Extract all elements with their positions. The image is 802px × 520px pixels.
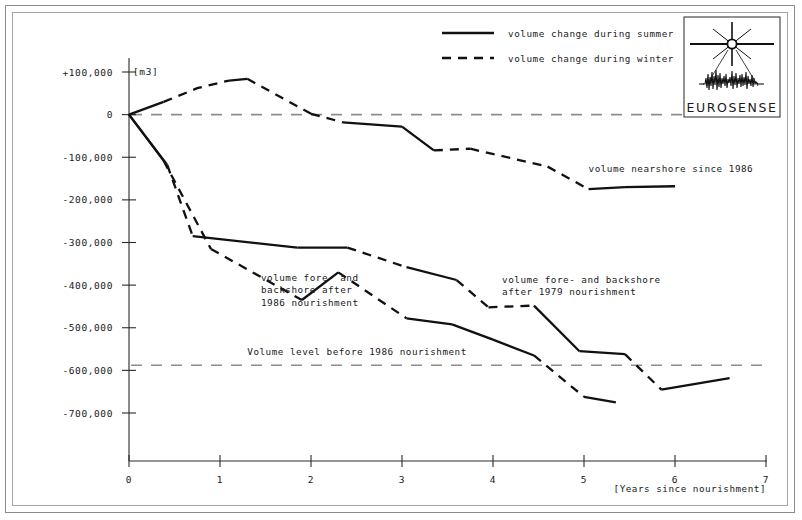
series-1-segment-4-dashed [347, 248, 406, 268]
y-tick-label-1: 0 [107, 109, 113, 120]
series-2-segment-9-solid [584, 397, 616, 403]
y-tick-label-8: -700,000 [62, 408, 113, 419]
eurosense-logo: EUROSENSE [684, 17, 780, 117]
series-0-segment-5-solid [343, 122, 402, 126]
y-tick-label-7: -600,000 [62, 365, 113, 376]
legend-label-summer: volume change during summer [508, 28, 674, 39]
y-tick-label-5: -400,000 [62, 280, 113, 291]
x-tick-label-1: 1 [217, 474, 223, 485]
annotations-group: volume nearshore since 1986volume fore- … [247, 163, 753, 357]
screenshot-frame: +100,0000-100,000-200,000-300,000-400,00… [0, 0, 802, 520]
y-tick-labels-group: +100,0000-100,000-200,000-300,000-400,00… [62, 67, 113, 419]
y-tick-label-2: -100,000 [62, 152, 113, 163]
x-tick-label-2: 2 [308, 474, 314, 485]
series-1-segment-11-solid [661, 378, 729, 390]
x-tick-label-3: 3 [399, 474, 405, 485]
y-tick-label-6: -500,000 [62, 322, 113, 333]
series-2-segment-7-solid [493, 340, 534, 356]
series-0-segment-1-dashed [164, 81, 230, 102]
annotation-2: volume fore- and backshoreafter 1979 nou… [502, 274, 661, 298]
series-1-segment-10-dashed [625, 354, 661, 389]
series-0-segment-7-dashed [434, 149, 470, 151]
series-0-segment-9-dashed [548, 167, 589, 190]
series-0-segment-8-dashed [470, 149, 547, 167]
legend-label-winter: volume change during winter [508, 53, 674, 64]
x-tick-label-0: 0 [126, 474, 132, 485]
annotation-0: volume nearshore since 1986 [589, 163, 754, 174]
annotation-3: Volume level before 1986 nourishment [247, 346, 466, 357]
x-axis-title: [Years since nourishment] [614, 483, 766, 494]
y-tick-label-3: -200,000 [62, 194, 113, 205]
series-2-segment-5-solid [407, 318, 453, 324]
series-1-segment-6-dashed [457, 280, 489, 307]
series-0-segment-6-solid [402, 127, 434, 151]
series-2 [129, 115, 616, 403]
series-1-segment-8-solid [534, 306, 580, 352]
series-2-segment-0-solid [129, 115, 164, 161]
series-2-segment-6-solid [452, 324, 493, 339]
series-1-segment-9-solid [579, 351, 625, 354]
series-2-segment-8-dashed [534, 355, 584, 396]
x-tick-label-5: 5 [581, 474, 587, 485]
legend: volume change during summer volume chang… [442, 28, 674, 64]
annotation-1: volume fore- andbackshore after1986 nour… [261, 272, 359, 308]
x-tick-label-4: 4 [490, 474, 496, 485]
series-0-segment-0-solid [129, 102, 164, 115]
series-1-segment-7-dashed [488, 306, 534, 308]
chart-canvas: +100,0000-100,000-200,000-300,000-400,00… [0, 0, 802, 520]
logo-wordmark: EUROSENSE [687, 100, 778, 115]
series-2-segment-1-dashed [164, 161, 211, 249]
axes-group [122, 58, 767, 467]
y-axis-unit-label: [m3] [133, 66, 158, 77]
y-tick-label-0: +100,000 [62, 67, 113, 78]
series-0-segment-2-solid [229, 79, 247, 81]
series-0-segment-3-dashed [247, 79, 311, 114]
y-tick-label-4: -300,000 [62, 237, 113, 248]
series-0-segment-10-solid [589, 187, 625, 189]
series-0-segment-11-solid [625, 186, 675, 187]
series-1-segment-5-solid [407, 267, 457, 280]
